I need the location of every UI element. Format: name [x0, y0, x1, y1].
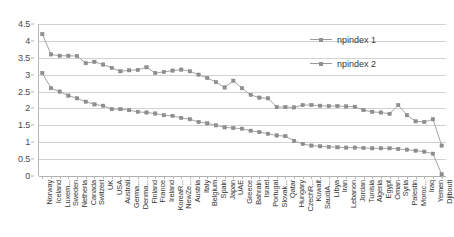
x-tick-mark	[355, 176, 356, 179]
y-tick-mark	[31, 74, 34, 75]
data-point-marker	[379, 111, 382, 114]
data-point-marker	[249, 129, 252, 132]
data-point-marker	[344, 146, 347, 149]
data-point-marker	[110, 107, 113, 110]
data-point-marker	[310, 144, 313, 147]
data-point-marker	[197, 73, 200, 76]
x-tick-mark	[277, 176, 278, 179]
x-tick-label: Netherla	[80, 180, 89, 207]
data-point-marker	[67, 94, 70, 97]
data-point-marker	[275, 105, 278, 108]
data-point-marker	[153, 112, 156, 115]
x-tick-mark	[112, 176, 113, 179]
x-tick-label: Norway	[45, 180, 54, 204]
x-tick-label: Spain	[219, 180, 228, 198]
x-tick-label: Iraq	[427, 180, 436, 192]
x-tick-mark	[173, 176, 174, 179]
data-point-marker	[258, 96, 261, 99]
x-tick-mark	[68, 176, 69, 179]
data-point-marker	[127, 108, 130, 111]
x-tick-mark	[138, 176, 139, 179]
x-tick-mark	[346, 176, 347, 179]
x-tick-mark	[424, 176, 425, 179]
data-point-marker	[353, 105, 356, 108]
data-point-marker	[353, 146, 356, 149]
data-point-marker	[397, 103, 400, 106]
data-point-marker	[440, 144, 443, 147]
x-tick-mark	[294, 176, 295, 179]
x-tick-label: Germa...	[132, 180, 141, 208]
x-tick-mark	[416, 176, 417, 179]
x-tick-label: Greece	[245, 180, 254, 204]
data-point-marker	[110, 66, 113, 69]
data-point-marker	[249, 93, 252, 96]
x-tick-mark	[242, 176, 243, 179]
y-tick-label: 2	[25, 103, 30, 113]
x-tick-mark	[77, 176, 78, 179]
x-tick-label: Hungary	[297, 180, 306, 207]
data-point-marker	[75, 54, 78, 57]
data-point-marker	[240, 86, 243, 89]
legend-marker-icon	[310, 59, 332, 68]
data-point-marker	[336, 104, 339, 107]
x-tick-label: UK	[106, 180, 115, 190]
data-point-marker	[197, 120, 200, 123]
data-point-marker	[292, 139, 295, 142]
data-point-marker	[266, 132, 269, 135]
data-point-marker	[206, 76, 209, 79]
x-tick-mark	[268, 176, 269, 179]
data-point-marker	[67, 54, 70, 57]
x-tick-mark	[381, 176, 382, 179]
data-point-marker	[58, 54, 61, 57]
data-point-marker	[223, 126, 226, 129]
data-point-marker	[41, 71, 44, 74]
data-point-marker	[171, 69, 174, 72]
x-tick-label: Iceland	[54, 180, 63, 203]
data-point-marker	[232, 126, 235, 129]
x-tick-label: France	[158, 180, 167, 202]
y-tick-mark	[31, 159, 34, 160]
data-point-marker	[388, 112, 391, 115]
data-point-marker	[188, 118, 191, 121]
data-point-marker	[188, 70, 191, 73]
line-chart: 00.511.522.533.544.5 NorwayIcelandLuxem.…	[0, 0, 454, 237]
x-tick-label: Djibouti	[445, 180, 454, 204]
data-point-marker	[414, 149, 417, 152]
x-tick-mark	[390, 176, 391, 179]
data-point-marker	[405, 148, 408, 151]
data-point-marker	[397, 147, 400, 150]
data-point-marker	[431, 118, 434, 121]
legend-entry-npindex-2[interactable]: npindex 2	[310, 55, 430, 72]
data-point-marker	[101, 104, 104, 107]
data-point-marker	[171, 114, 174, 117]
x-tick-mark	[216, 176, 217, 179]
x-tick-mark	[398, 176, 399, 179]
data-point-marker	[93, 60, 96, 63]
data-point-marker	[292, 106, 295, 109]
x-tick-label: Yemen	[436, 180, 445, 202]
data-point-marker	[84, 100, 87, 103]
data-point-marker	[153, 71, 156, 74]
y-tick-mark	[31, 176, 34, 177]
y-tick-label: 1	[25, 137, 30, 147]
data-point-marker	[206, 122, 209, 125]
x-tick-mark	[433, 176, 434, 179]
x-tick-label: Belgium	[210, 180, 219, 206]
data-point-marker	[75, 97, 78, 100]
x-tick-mark	[164, 176, 165, 179]
data-point-marker	[240, 127, 243, 130]
x-tick-label: Ireland	[167, 180, 176, 202]
x-tick-label: NewZe...	[184, 180, 193, 209]
x-tick-mark	[372, 176, 373, 179]
x-tick-mark	[181, 176, 182, 179]
data-point-marker	[162, 70, 165, 73]
legend-entry-npindex-1[interactable]: npindex 1	[310, 31, 430, 48]
data-point-marker	[423, 120, 426, 123]
x-tick-mark	[207, 176, 208, 179]
x-tick-mark	[86, 176, 87, 179]
data-point-marker	[180, 68, 183, 71]
data-point-marker	[93, 103, 96, 106]
data-point-marker	[284, 105, 287, 108]
data-point-marker	[127, 69, 130, 72]
x-tick-mark	[303, 176, 304, 179]
